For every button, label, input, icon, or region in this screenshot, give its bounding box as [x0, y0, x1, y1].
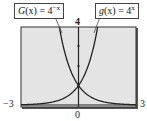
y-min-label: 0	[75, 110, 80, 120]
callout-g: g(x) = 4x	[95, 3, 139, 19]
y-max-label: 4	[75, 17, 80, 27]
callout-G-eq: (x) = 4	[25, 5, 52, 16]
x-min-label: −3	[3, 99, 14, 109]
callout-G-exp: −x	[53, 4, 60, 12]
callout-g-exp: x	[131, 4, 135, 12]
callout-g-eq: (x) = 4	[104, 5, 131, 16]
x-max-label: 3	[140, 99, 145, 109]
callout-G: G(x) = 4−x	[14, 3, 64, 19]
